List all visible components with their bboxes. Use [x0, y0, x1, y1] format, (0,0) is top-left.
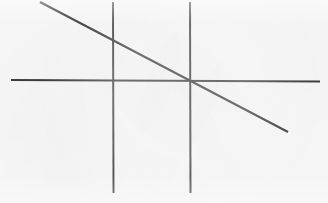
line-diagram: [0, 0, 328, 203]
figure-background: [0, 0, 328, 203]
figure-canvas: [0, 0, 328, 203]
vertical-line-left: [113, 2, 114, 193]
vertical-line-right: [190, 2, 191, 193]
